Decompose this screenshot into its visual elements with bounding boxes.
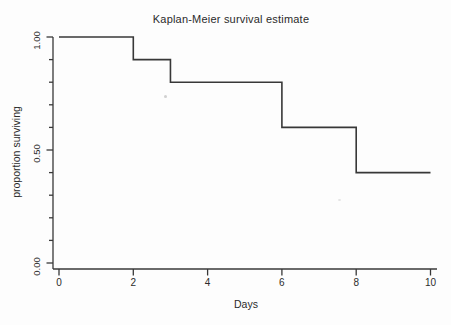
x-axis-title: Days [234, 298, 258, 310]
x-tick-label: 4 [205, 277, 211, 288]
survival-step-curve [59, 37, 431, 173]
x-tick-label: 8 [353, 277, 359, 288]
x-tick-label: 6 [279, 277, 285, 288]
plot-area: 0.000.501.000246810 [0, 0, 451, 325]
y-tick-label: 0.50 [31, 144, 42, 163]
y-tick-label: 0.00 [31, 257, 42, 276]
y-tick-label: 1.00 [31, 31, 42, 50]
km-survival-chart: Kaplan-Meier survival estimate proportio… [0, 0, 451, 325]
x-tick-label: 2 [131, 277, 137, 288]
x-tick-label: 10 [425, 277, 437, 288]
scan-speck [338, 199, 341, 201]
x-tick-label: 0 [56, 277, 62, 288]
scan-speck [164, 95, 167, 98]
